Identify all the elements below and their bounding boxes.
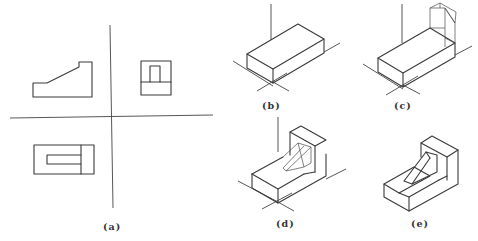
panel-label-c: (c) — [394, 100, 412, 111]
panel-label-b: (b) — [262, 100, 281, 111]
panel-a-views — [10, 25, 213, 208]
panel-d-rib-construction — [238, 117, 346, 211]
panel-b-base-block — [233, 4, 340, 91]
panel-c-construction — [363, 3, 472, 95]
panel-label-a: (a) — [103, 221, 121, 232]
panel-e-final-part — [384, 136, 458, 211]
side-view — [141, 61, 171, 95]
top-view — [34, 145, 94, 174]
technical-drawing-canvas — [0, 0, 478, 241]
front-view — [33, 62, 92, 97]
panel-label-d: (d) — [276, 218, 295, 229]
panel-label-e: (e) — [411, 218, 429, 229]
